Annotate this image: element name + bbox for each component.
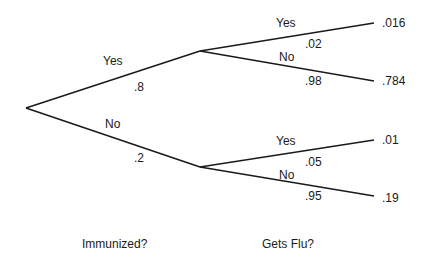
immunized-no-label: No [105, 117, 120, 131]
immunized-no-prob: .2 [134, 151, 144, 165]
tree-lines [0, 0, 425, 266]
yes-flu-no-prob: .98 [305, 74, 322, 88]
yes-flu-yes-prob: .02 [305, 37, 322, 51]
no-flu-no-label: No [279, 168, 294, 182]
outcome-yes-no: .784 [382, 74, 405, 88]
outcome-no-no: .19 [382, 191, 399, 205]
yes-flu-no-label: No [279, 50, 294, 64]
level-label-immunized: Immunized? [82, 237, 147, 251]
no-flu-yes-prob: .05 [305, 155, 322, 169]
no-flu-no-prob: .95 [305, 189, 322, 203]
outcome-no-yes: .01 [382, 133, 399, 147]
immunized-yes-label: Yes [103, 54, 123, 68]
immunized-yes-prob: .8 [134, 80, 144, 94]
no-flu-yes-label: Yes [276, 134, 296, 148]
level-label-gets-flu: Gets Flu? [262, 237, 314, 251]
yes-flu-yes-label: Yes [276, 16, 296, 30]
outcome-yes-yes: .016 [382, 16, 405, 30]
